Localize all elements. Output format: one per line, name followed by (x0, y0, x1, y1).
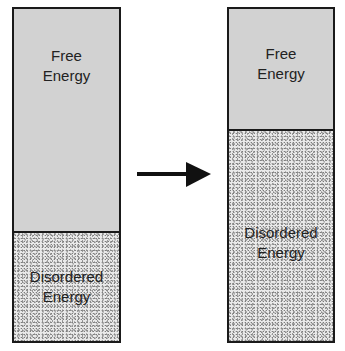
right-energy-bar: Free Energy Disordered Energy (227, 7, 335, 343)
right-free-label-1: Free (266, 44, 297, 64)
right-disordered-label-2: Energy (257, 243, 305, 263)
right-free-energy-region: Free Energy (229, 9, 333, 129)
right-free-label-2: Energy (257, 64, 305, 84)
right-disordered-label-1: Disordered (244, 223, 317, 243)
right-disordered-energy-region: Disordered Energy (229, 129, 333, 341)
